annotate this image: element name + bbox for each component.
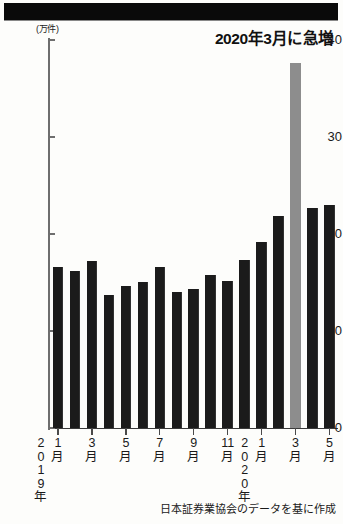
x-tick-label: 7 月 (147, 437, 173, 464)
x-tick-label: 9 月 (181, 437, 207, 464)
bar (205, 275, 216, 428)
x-axis-year-label: 2 0 2 0 年 (237, 437, 253, 505)
bar (138, 282, 149, 428)
bar (155, 267, 166, 428)
bar (172, 292, 183, 428)
bar (53, 267, 64, 428)
bar (104, 295, 115, 428)
bar (222, 281, 233, 428)
bar (256, 242, 267, 428)
bar (324, 205, 335, 428)
bar (70, 271, 81, 428)
bar (307, 208, 318, 428)
x-axis-labels: 1 月3 月5 月7 月9 月11 月1 月3 月5 月2 0 1 9 年2 0… (0, 437, 342, 497)
x-tick-label: 5 月 (317, 437, 343, 464)
x-tick-label: 3 月 (283, 437, 309, 464)
bar (87, 261, 98, 428)
bar-highlighted (290, 63, 301, 428)
x-tick-label: 3 月 (79, 437, 105, 464)
bar (273, 216, 284, 428)
source-caption: 日本証券業協会のデータを基に作成 (160, 500, 336, 516)
x-tick-label: 5 月 (113, 437, 139, 464)
x-axis-year-label: 2 0 1 9 年 (33, 437, 49, 505)
bar (239, 260, 250, 428)
chart-annotation-callout: 2020年3月に急増 (215, 26, 334, 48)
bar (188, 289, 199, 428)
bar (121, 286, 132, 428)
